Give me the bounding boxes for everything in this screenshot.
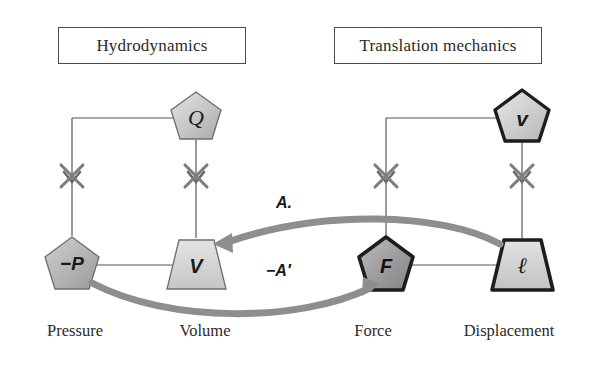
diagram-canvas: Hydrodynamics Translation mechanics Q v … bbox=[0, 0, 612, 366]
bottom-label-volume: Volume bbox=[130, 321, 280, 341]
domain-box-translation-mechanics: Translation mechanics bbox=[334, 27, 542, 64]
domain-label-hydrodynamics: Hydrodynamics bbox=[96, 36, 207, 56]
domain-box-hydrodynamics: Hydrodynamics bbox=[58, 27, 246, 64]
domain-label-translation-mechanics: Translation mechanics bbox=[359, 36, 516, 56]
bottom-label-displacement: Displacement bbox=[424, 321, 594, 341]
coupling-arrow-label-A: A. bbox=[276, 194, 292, 212]
bottom-label-pressure: Pressure bbox=[0, 321, 150, 341]
coupling-arrow-negAprime[interactable] bbox=[92, 277, 381, 314]
bottom-label-force: Force bbox=[318, 321, 428, 341]
coupling-arrow-A[interactable] bbox=[213, 219, 500, 253]
coupling-arrow-label-negAprime: −A′ bbox=[266, 262, 291, 280]
